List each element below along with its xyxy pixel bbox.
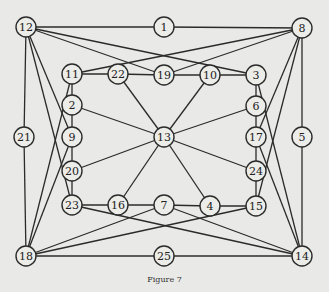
node-9: 9 (62, 127, 82, 147)
node-15: 15 (246, 196, 266, 216)
node-6: 6 (246, 96, 266, 116)
node-label: 11 (65, 68, 79, 81)
node-12: 12 (16, 17, 36, 37)
edge-14-17 (256, 137, 302, 256)
edge-13-6 (164, 106, 256, 137)
edge-13-22 (118, 74, 164, 137)
node-24: 24 (246, 161, 266, 181)
node-label: 2 (69, 99, 76, 112)
node-4: 4 (200, 196, 220, 216)
figure-caption: Figure 7 (0, 275, 329, 284)
node-label: 25 (157, 250, 171, 263)
graph-diagram: 1218112219103262191317520242316741518251… (0, 0, 329, 292)
node-13: 13 (154, 127, 174, 147)
node-label: 22 (111, 68, 125, 81)
node-23: 23 (62, 195, 82, 215)
node-label: 23 (65, 199, 79, 212)
node-25: 25 (154, 246, 174, 266)
node-label: 19 (157, 69, 171, 82)
node-label: 5 (299, 131, 306, 144)
node-14: 14 (292, 246, 312, 266)
node-label: 18 (19, 250, 33, 263)
node-label: 10 (203, 69, 217, 82)
node-8: 8 (292, 18, 312, 38)
node-label: 24 (249, 165, 263, 178)
node-18: 18 (16, 246, 36, 266)
edge-18-9 (26, 137, 72, 256)
node-22: 22 (108, 64, 128, 84)
edge-12-3 (26, 27, 256, 75)
edge-13-10 (164, 75, 210, 137)
node-21: 21 (14, 127, 34, 147)
edge-13-24 (164, 137, 256, 171)
node-2: 2 (62, 95, 82, 115)
edge-21-18 (24, 137, 26, 256)
edge-1-8 (164, 27, 302, 28)
node-label: 21 (17, 131, 31, 144)
node-20: 20 (62, 161, 82, 181)
node-label: 4 (207, 200, 214, 213)
node-label: 14 (295, 250, 309, 263)
node-17: 17 (246, 127, 266, 147)
node-5: 5 (292, 127, 312, 147)
node-10: 10 (200, 65, 220, 85)
node-label: 7 (161, 199, 168, 212)
node-label: 16 (111, 199, 125, 212)
node-label: 15 (249, 200, 263, 213)
node-1: 1 (154, 17, 174, 37)
node-label: 6 (253, 100, 260, 113)
node-16: 16 (108, 195, 128, 215)
edge-13-2 (72, 105, 164, 137)
node-7: 7 (154, 195, 174, 215)
node-3: 3 (246, 65, 266, 85)
edge-13-16 (118, 137, 164, 205)
node-11: 11 (62, 64, 82, 84)
edge-13-20 (72, 137, 164, 171)
node-19: 19 (154, 65, 174, 85)
node-label: 17 (249, 131, 263, 144)
nodes-layer: 1218112219103262191317520242316741518251… (14, 17, 312, 266)
node-label: 12 (19, 21, 33, 34)
edge-12-21 (24, 27, 26, 137)
edge-14-23 (72, 205, 302, 256)
edge-8-15 (256, 28, 302, 206)
node-label: 3 (253, 69, 260, 82)
edge-13-4 (164, 137, 210, 206)
node-label: 13 (157, 131, 171, 144)
node-label: 1 (161, 21, 168, 34)
node-label: 8 (299, 22, 306, 35)
node-label: 9 (69, 131, 76, 144)
node-label: 20 (65, 165, 79, 178)
